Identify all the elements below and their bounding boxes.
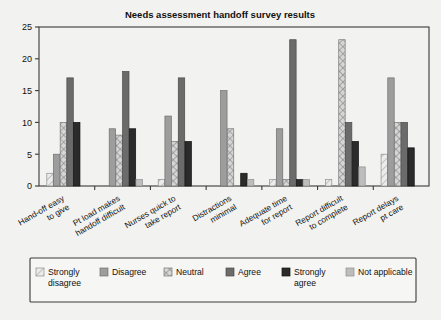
bar [303,180,309,186]
legend-label: Strongly [294,267,326,277]
bar [359,167,365,186]
chart-container: Needs assessment handoff survey results … [0,0,441,320]
legend-swatch [100,268,108,276]
legend-swatch [36,268,44,276]
bar [408,148,414,186]
bar [221,91,227,186]
bar [47,173,53,186]
bar [109,129,115,186]
bar [388,78,394,186]
bar-chart: Needs assessment handoff survey results … [0,0,441,320]
bar [247,180,253,186]
chart-legend: StronglydisagreeDisagreeNeutralAgreeStro… [30,258,416,302]
bar [129,129,135,186]
bar [339,40,345,186]
legend-swatch [226,268,234,276]
legend-label: Neutral [176,267,204,277]
legend-box [30,258,416,302]
bar [67,78,73,186]
bar [74,122,80,186]
bar [401,122,407,186]
legend-label: disagree [48,278,81,288]
bar [345,122,351,186]
bar [381,154,387,186]
bar [165,116,171,186]
chart-title: Needs assessment handoff survey results [125,9,315,20]
legend-label: Not applicable [358,267,413,277]
bar [352,141,358,186]
legend-item[interactable]: Disagree [100,267,147,277]
bar [116,135,122,186]
y-tick-label: 20 [22,54,32,64]
legend-item[interactable]: Agree [226,267,261,277]
bar [172,141,178,186]
bar [296,180,302,186]
legend-swatch [164,268,172,276]
bar [158,180,164,186]
legend-label: Disagree [112,267,147,277]
bar [53,154,59,186]
bar [241,173,247,186]
y-tick-label: 15 [22,86,32,96]
y-tick-label: 25 [22,22,32,32]
bar [185,141,191,186]
bar [290,40,296,186]
bar [227,129,233,186]
legend-swatch [346,268,354,276]
legend-label: Strongly [48,267,80,277]
y-tick-label: 5 [27,150,32,160]
bar [123,72,129,186]
bar [270,180,276,186]
legend-label: agree [294,278,316,288]
y-tick-label: 10 [22,118,32,128]
bar [60,122,66,186]
legend-swatch [282,268,290,276]
bar [394,122,400,186]
legend-item[interactable]: Neutral [164,267,204,277]
legend-label: Agree [238,267,261,277]
bar [325,180,331,186]
bar [276,129,282,186]
bar [283,180,289,186]
bar [136,180,142,186]
bar [178,78,184,186]
y-tick-label: 0 [27,181,32,191]
